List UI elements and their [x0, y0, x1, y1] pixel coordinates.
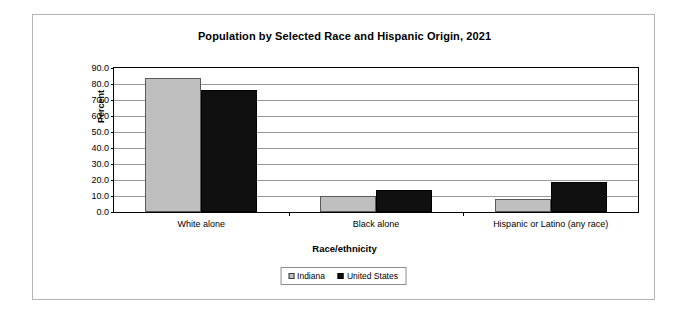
y-tick-label: 60.0 [91, 111, 109, 121]
y-tick-label: 70.0 [91, 95, 109, 105]
y-tick-label: 40.0 [91, 143, 109, 153]
legend-label: Indiana [297, 271, 325, 281]
x-tick-label: Black alone [353, 219, 400, 229]
x-tick-mark [463, 212, 464, 216]
y-tick-label: 90.0 [91, 63, 109, 73]
legend-entry: United States [338, 271, 398, 281]
plot-area: Percent 90.080.070.060.050.040.030.020.0… [113, 67, 639, 213]
chart-legend: IndianaUnited States [280, 267, 407, 285]
bar-united-states [551, 182, 607, 212]
bar-united-states [201, 90, 257, 212]
y-tick-label: 50.0 [91, 127, 109, 137]
y-tick-label: 0.0 [96, 207, 109, 217]
y-tick-mark [111, 68, 114, 69]
x-tick-label: White alone [178, 219, 226, 229]
y-tick-label: 80.0 [91, 79, 109, 89]
bar-indiana [320, 196, 376, 212]
chart-title: Population by Selected Race and Hispanic… [33, 30, 656, 42]
y-tick-label: 20.0 [91, 175, 109, 185]
y-tick-mark [111, 212, 114, 213]
chart-figure: Population by Selected Race and Hispanic… [32, 14, 655, 300]
bar-indiana [495, 199, 551, 212]
bar-indiana [145, 78, 201, 212]
x-tick-label: Hispanic or Latino (any race) [493, 219, 608, 229]
legend-entry: Indiana [288, 271, 325, 281]
legend-label: United States [347, 271, 398, 281]
bar-united-states [376, 190, 432, 212]
x-axis-title: Race/ethnicity [33, 243, 656, 254]
y-tick-label: 30.0 [91, 159, 109, 169]
legend-swatch-icon [288, 273, 294, 279]
x-tick-mark [289, 212, 290, 216]
y-tick-label: 10.0 [91, 191, 109, 201]
legend-swatch-icon [338, 273, 344, 279]
